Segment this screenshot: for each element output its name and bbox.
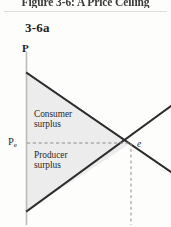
consumer-surplus-label: Consumer surplus [34,109,96,130]
producer-surplus-label: Producer surplus [34,150,96,171]
equilibrium-price-label: Pe [8,136,17,150]
equilibrium-point-label: e [137,139,141,150]
figure-container: Figure 3-6: A Price Ceiling 3-6a P Pe Co… [0,0,171,227]
price-axis-label: P [22,42,29,54]
equilibrium-price-label-subscript: e [14,141,17,149]
